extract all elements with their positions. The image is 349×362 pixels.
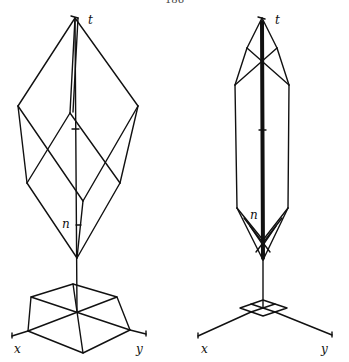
label-t-left: t [88, 13, 93, 27]
label-y-right: y [320, 342, 328, 356]
label-y-left: y [135, 342, 143, 356]
x-axis-left [12, 331, 28, 336]
y-axis-right [275, 312, 332, 335]
label-n-left: n [62, 217, 70, 231]
label-t-right: t [275, 13, 280, 27]
y-axis-left [130, 330, 146, 334]
label-x-right: x [201, 342, 208, 356]
base-hexagon-left [28, 284, 130, 353]
label-n-right: n [250, 208, 258, 222]
diagram-canvas: t n x y t n [0, 0, 349, 362]
label-x-left: x [14, 342, 21, 356]
right-figure [198, 17, 332, 338]
left-figure [12, 16, 146, 353]
x-axis-right [198, 312, 251, 336]
central-bar [262, 22, 263, 258]
